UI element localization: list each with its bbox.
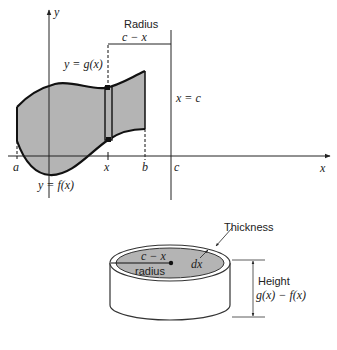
strip-bottom-marker xyxy=(106,137,111,142)
bottom-figure: c − x radius dx Thickness Height g(x) − … xyxy=(110,221,306,320)
radius-title: Radius xyxy=(124,18,159,30)
thickness-dx-label: dx xyxy=(191,257,203,271)
center-dot xyxy=(169,261,173,265)
radius-value: c − x xyxy=(122,30,147,44)
thickness-label: Thickness xyxy=(224,221,274,233)
x-axis-label: x xyxy=(319,161,326,175)
top-figure: y x a x b c y = g(x) y = f(x) x = c Radi… xyxy=(8,5,330,200)
height-label: Height xyxy=(258,275,290,287)
label-g-curve: y = g(x) xyxy=(63,57,103,71)
label-x-equals-c: x = c xyxy=(175,91,201,105)
tick-label-c: c xyxy=(174,160,180,174)
label-f-curve: y = f(x) xyxy=(37,178,74,192)
shell-method-diagram: y x a x b c y = g(x) y = f(x) x = c Radi… xyxy=(0,0,337,350)
cylinder-radius-value: c − x xyxy=(141,249,166,263)
y-axis-label: y xyxy=(53,5,60,19)
tick-label-x: x xyxy=(103,160,110,174)
shaded-region xyxy=(17,71,145,175)
tick-label-a: a xyxy=(13,160,19,174)
cylinder-radius-label: radius xyxy=(135,265,165,277)
vertical-strip xyxy=(105,87,112,140)
height-value: g(x) − f(x) xyxy=(256,288,306,302)
tick-label-b: b xyxy=(142,160,148,174)
